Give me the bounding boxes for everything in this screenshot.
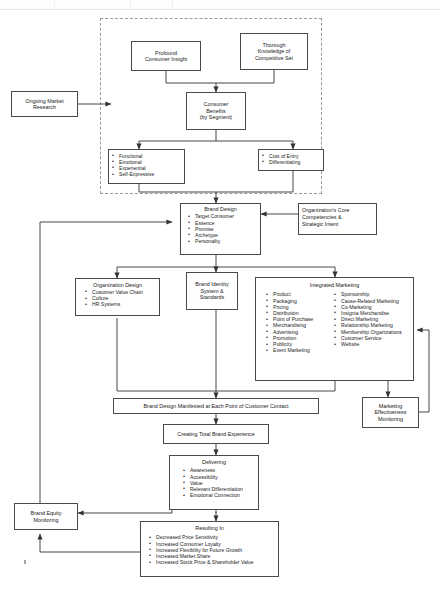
node-brand-equity-monitoring[interactable]: Brand EquityMonitoring <box>14 503 78 530</box>
list-item: Emotional Connection <box>183 492 258 498</box>
flowchart-canvas: Ongoing MarketResearch ProfoundConsumer … <box>0 0 440 591</box>
resulting-in-list: Decreased Price SensitivityIncreased Con… <box>149 534 278 565</box>
node-marketing-effectiveness[interactable]: MarketingEffectivenessMonitoring <box>362 397 419 428</box>
node-label-line: Marketing <box>379 403 403 409</box>
edge-knowledge-down <box>216 70 274 83</box>
node-consumer-benefits[interactable]: ConsumerBenefits(by Segment) <box>186 92 246 130</box>
edge-types-merge <box>139 184 216 192</box>
node-label-line: Benefits <box>206 108 225 114</box>
node-label: ThoroughKnowledge ofCompetitive Set <box>255 42 293 61</box>
node-label: Brand IdentitySystem &Standards <box>195 281 228 300</box>
node-label-line: Monitoring <box>378 416 403 422</box>
node-brand-identity-system[interactable]: Brand IdentitySystem &Standards <box>186 272 238 310</box>
node-label-line: Ongoing Market <box>25 98 63 104</box>
list-item: Increased Stock Price & Shareholder Valu… <box>149 559 278 565</box>
node-label: ProfoundConsumer Insight <box>145 50 187 63</box>
node-label-line: Thorough <box>262 42 285 48</box>
node-delivering[interactable]: Delivering AwarenessAccessibilityValueRe… <box>169 455 259 510</box>
list-item: Personality <box>188 238 260 244</box>
node-brand-design[interactable]: Brand Design Target ConsumerEssencePromi… <box>180 203 261 255</box>
node-org-core-competencies[interactable]: Organization's CoreCompetencies &Strateg… <box>298 203 377 235</box>
list-item: HR Systems <box>85 301 159 307</box>
node-label-line: Effectiveness <box>375 409 407 415</box>
node-thorough-knowledge[interactable]: ThoroughKnowledge ofCompetitive Set <box>240 33 308 70</box>
edge-insight-down <box>166 71 216 83</box>
node-brand-design-manifested[interactable]: Brand Design Manifested at Each Point of… <box>113 398 319 414</box>
node-label-line: Strategic Intent <box>302 221 338 227</box>
node-title: Organization Design <box>76 282 159 288</box>
node-benefit-types[interactable]: FunctionalEmotionalExperientialSelf-Expr… <box>108 149 185 184</box>
node-ongoing-market-research[interactable]: Ongoing MarketResearch <box>11 91 78 117</box>
node-organization-design[interactable]: Organization Design Customer Value Chain… <box>75 278 160 316</box>
node-label-line: (by Segment) <box>200 114 232 120</box>
edge-org-design-merge <box>117 318 216 391</box>
node-label: ConsumerBenefits(by Segment) <box>200 101 232 120</box>
node-label-line: Monitoring <box>33 517 58 523</box>
node-title: Resulting In <box>141 525 278 531</box>
edge-resulting-to-equity <box>40 534 140 552</box>
node-label: Brand Design Manifested at Each Point of… <box>143 403 288 409</box>
node-label-line: Creating Total Brand Experience <box>177 431 255 437</box>
node-label-line: Profound <box>155 50 177 56</box>
list-item: Event Marketing <box>266 347 324 353</box>
edge-im-merge <box>216 381 335 391</box>
node-integrated-marketing[interactable]: Integrated Marketing ProductPackagingPri… <box>255 277 414 381</box>
integrated-marketing-list-left: ProductPackagingPricingDistributionPoint… <box>266 291 324 353</box>
benefit-types-list: FunctionalEmotionalExperientialSelf-Expr… <box>112 153 181 178</box>
node-label-line: Competitive Set <box>255 55 293 61</box>
node-resulting-in[interactable]: Resulting In Decreased Price Sensitivity… <box>140 521 279 577</box>
integrated-marketing-list-right: SponsorshipCause-Related MarketingCo-Mar… <box>334 291 402 353</box>
node-label: Ongoing MarketResearch <box>25 98 63 111</box>
node-label-line: Organization's Core <box>302 207 349 213</box>
node-label-line: Consumer Insight <box>145 56 187 62</box>
edge-roles-merge <box>216 171 293 192</box>
node-profound-consumer-insight[interactable]: ProfoundConsumer Insight <box>131 41 201 71</box>
node-label: MarketingEffectivenessMonitoring <box>375 403 407 422</box>
node-label-line: System & <box>200 288 223 294</box>
brand-design-list: Target ConsumerEssencePromiseArchetypePe… <box>188 213 260 244</box>
node-label-line: Consumer <box>204 101 229 107</box>
node-label-line: Research <box>33 104 56 110</box>
node-label: Creating Total Brand Experience <box>177 431 255 437</box>
delivering-list: AwarenessAccessibilityValueRelevant Diff… <box>183 467 258 498</box>
node-title: Delivering <box>170 459 258 465</box>
benefit-roles-list: Cost of EntryDifferentiating <box>262 153 320 165</box>
node-label-line: Brand Equity <box>31 510 62 516</box>
list-item: Differentiating <box>262 159 320 165</box>
node-label-line: Knowledge of <box>258 48 291 54</box>
organization-design-list: Customer Value ChainCultureHR Systems <box>85 289 159 308</box>
node-label-line: Brand Identity <box>195 281 228 287</box>
node-title: Brand Design <box>181 206 260 212</box>
node-label-line: Brand Design Manifested at Each Point of… <box>143 403 288 409</box>
node-label-line: Competencies & <box>302 214 342 220</box>
node-label: Organization's CoreCompetencies &Strateg… <box>302 207 373 229</box>
node-creating-total-brand-experience[interactable]: Creating Total Brand Experience <box>163 424 269 444</box>
node-label-line: Standards <box>200 294 225 300</box>
node-title: Integrated Marketing <box>256 282 413 288</box>
list-item: Website <box>334 341 402 347</box>
node-label: Brand EquityMonitoring <box>31 510 62 523</box>
list-item: Self-Expressive <box>112 171 181 177</box>
node-benefit-roles[interactable]: Cost of EntryDifferentiating <box>258 149 324 171</box>
